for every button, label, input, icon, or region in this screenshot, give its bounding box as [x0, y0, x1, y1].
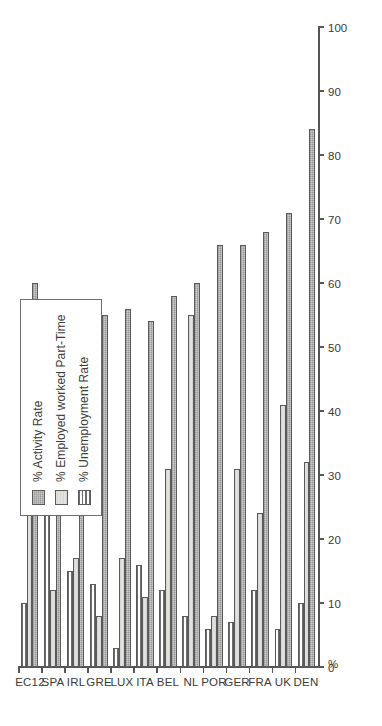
- bar-activity[interactable]: [286, 213, 292, 667]
- legend-label-parttime: % Employed worked Part-Time: [54, 314, 68, 482]
- chart-canvas: % 0102030405060708090100 DENUKFRAGERPORN…: [0, 0, 382, 726]
- value-tick-label: 100: [328, 22, 347, 34]
- category-label: ITA: [136, 676, 154, 688]
- category-tick: [18, 668, 20, 673]
- value-tick-label: 80: [328, 150, 341, 162]
- value-tick: [318, 155, 324, 157]
- category-label: GER: [224, 676, 250, 688]
- category-label: UK: [275, 676, 291, 688]
- category-label: IRL: [66, 676, 85, 688]
- value-tick: [318, 475, 324, 477]
- bar-group: NL: [180, 28, 203, 668]
- value-tick-label: 50: [328, 342, 341, 354]
- value-tick-label: 40: [328, 406, 341, 418]
- swatch-activity-icon: [32, 490, 45, 505]
- category-tick: [180, 668, 182, 673]
- bar-activity[interactable]: [148, 321, 154, 667]
- value-tick: [318, 603, 324, 605]
- category-tick: [110, 668, 112, 673]
- bar-activity[interactable]: [102, 315, 108, 667]
- chart-rotor: % 0102030405060708090100 DENUKFRAGERPORN…: [0, 0, 382, 726]
- category-label: FRA: [248, 676, 272, 688]
- bar-group: LUX: [110, 28, 133, 668]
- chart-legend: % Activity Rate % Employed worked Part-T…: [20, 299, 102, 516]
- category-label: POR: [201, 676, 227, 688]
- value-tick-label: 0: [328, 662, 334, 674]
- value-axis-line: [318, 28, 320, 668]
- category-label: DEN: [294, 676, 319, 688]
- category-tick: [156, 668, 158, 673]
- category-tick: [295, 668, 297, 673]
- category-label: GRE: [86, 676, 112, 688]
- legend-item-parttime: % Employed worked Part-Time: [54, 314, 68, 505]
- category-label: EC12: [15, 676, 45, 688]
- category-tick: [133, 668, 135, 673]
- value-tick: [318, 347, 324, 349]
- bar-group: DEN: [295, 28, 318, 668]
- category-tick: [226, 668, 228, 673]
- bar-group: GER: [226, 28, 249, 668]
- value-tick-label: 60: [328, 278, 341, 290]
- bar-activity[interactable]: [217, 245, 223, 667]
- bar-group: FRA: [249, 28, 272, 668]
- legend-label-activity: % Activity Rate: [31, 400, 45, 482]
- bar-group: POR: [203, 28, 226, 668]
- legend-item-unemployment: % Unemployment Rate: [77, 314, 91, 505]
- legend-label-unemployment: % Unemployment Rate: [77, 357, 91, 482]
- value-tick: [318, 91, 324, 93]
- bar-activity[interactable]: [125, 309, 131, 667]
- value-tick-label: 90: [328, 86, 341, 98]
- value-tick: [318, 411, 324, 413]
- category-label: NL: [184, 676, 199, 688]
- value-tick-label: 70: [328, 214, 341, 226]
- value-tick-label: 20: [328, 534, 341, 546]
- bar-activity[interactable]: [309, 129, 315, 667]
- category-label: LUX: [110, 676, 133, 688]
- category-tick: [249, 668, 251, 673]
- value-tick: [318, 283, 324, 285]
- category-tick: [87, 668, 89, 673]
- swatch-unemployment-icon: [78, 490, 91, 505]
- category-tick: [64, 668, 66, 673]
- bar-group: ITA: [133, 28, 156, 668]
- bar-activity[interactable]: [171, 296, 177, 667]
- value-tick: [318, 539, 324, 541]
- bar-group: BEL: [156, 28, 179, 668]
- value-tick: [318, 27, 324, 29]
- value-tick: [318, 219, 324, 221]
- bar-activity[interactable]: [240, 245, 246, 667]
- value-tick-label: 10: [328, 598, 341, 610]
- category-tick: [272, 668, 274, 673]
- bar-activity[interactable]: [194, 283, 200, 667]
- category-tick: [203, 668, 205, 673]
- bar-activity[interactable]: [263, 232, 269, 667]
- value-tick-label: 30: [328, 470, 341, 482]
- bar-group: UK: [272, 28, 295, 668]
- category-label: BEL: [157, 676, 179, 688]
- swatch-parttime-icon: [55, 490, 68, 505]
- value-tick: [318, 667, 324, 669]
- legend-item-activity: % Activity Rate: [31, 314, 45, 505]
- category-tick: [41, 668, 43, 673]
